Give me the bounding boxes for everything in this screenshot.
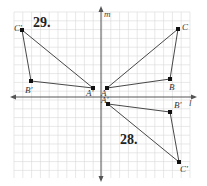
vertex-label: C' bbox=[14, 23, 23, 33]
vertex-label: C' bbox=[180, 164, 189, 174]
arrow-up-icon bbox=[99, 6, 104, 12]
vertex-label: B bbox=[169, 82, 175, 92]
exercise-number: 29. bbox=[33, 15, 51, 30]
vertex-label: B' bbox=[174, 100, 182, 110]
arrow-left-icon bbox=[10, 95, 16, 100]
arrow-right-icon bbox=[191, 95, 197, 100]
vertex-label: C bbox=[182, 22, 189, 32]
vertex-label: B' bbox=[25, 85, 33, 95]
vertex-point bbox=[176, 27, 180, 31]
axis-l-label: l bbox=[189, 98, 192, 108]
reflection-diagram: ml C'B'A'ABCA'B'C'29.28. bbox=[0, 0, 207, 186]
vertex-point bbox=[168, 110, 172, 114]
vertex-label: A' bbox=[100, 95, 109, 105]
axis-m-label: m bbox=[104, 9, 111, 19]
triangle-original bbox=[107, 29, 178, 88]
exercise-number: 28. bbox=[120, 132, 138, 147]
arrow-down-icon bbox=[99, 176, 104, 182]
vertex-label: A' bbox=[85, 88, 94, 98]
vertex-point bbox=[29, 79, 33, 83]
vertex-point bbox=[168, 77, 172, 81]
